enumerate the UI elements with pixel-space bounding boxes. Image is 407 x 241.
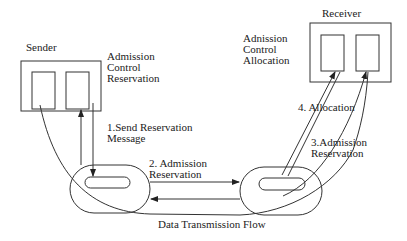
step2-label: 2. Admission Reservation [149, 158, 207, 180]
diagram-graphics [0, 0, 407, 241]
arrow-step4-b [288, 72, 340, 176]
diagram-canvas: Sender Admission Control Reservation Rec… [0, 0, 407, 241]
receiver-side-note: Adnission Control Allocation [243, 33, 289, 66]
sender-node [21, 61, 101, 111]
step4-label: 4. Allocation [298, 102, 355, 113]
step1-label: 1.Send Reservation Message [107, 122, 193, 144]
arrow-step3 [283, 72, 366, 196]
sender-module-left [32, 72, 55, 109]
step2-line-2: Reservation [149, 169, 207, 180]
sender-module-right [66, 72, 89, 109]
data-flow-label: Data Transmission Flow [158, 219, 266, 230]
step3-label: 3.Admission Reservation [311, 137, 367, 159]
receiver-note-line-3: Allocation [243, 55, 289, 66]
receiver-label: Receiver [322, 8, 361, 19]
step1-line-2: Message [107, 133, 193, 144]
sender-label: Sender [26, 42, 57, 53]
receiver-node [310, 23, 391, 82]
receiver-module-left [321, 35, 344, 71]
step3-line-2: Reservation [311, 148, 367, 159]
arrow-step4-a [282, 72, 335, 175]
sender-note-line-3: Reservation [107, 73, 160, 84]
receiver-module-right [356, 35, 379, 71]
sender-side-note: Admission Control Reservation [107, 51, 160, 84]
